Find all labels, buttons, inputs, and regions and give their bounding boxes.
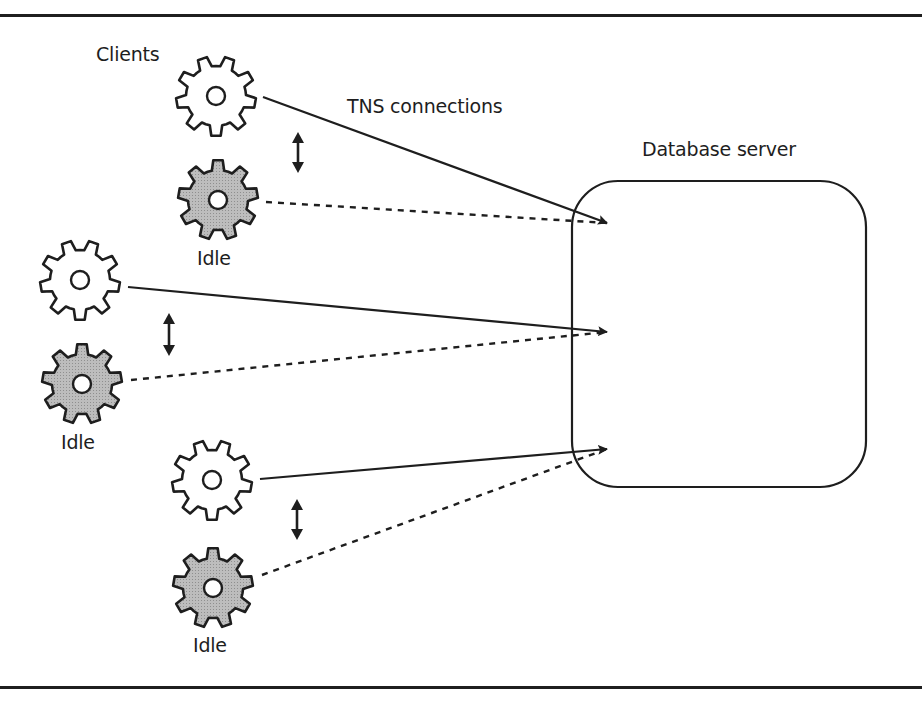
idle-label-1: Idle (197, 249, 231, 268)
tns-connection-idle (262, 449, 607, 575)
database-server-box (572, 181, 866, 487)
idle-client-gear-icon (178, 160, 258, 239)
idle-label-3: Idle (193, 636, 227, 655)
idle-label-2: Idle (61, 433, 95, 452)
double-arrow-icon (292, 132, 304, 173)
double-arrow-icon (163, 313, 175, 356)
tns-connections-label: TNS connections (347, 97, 503, 116)
tns-connection-active (260, 449, 607, 479)
tns-connection-idle (131, 332, 607, 380)
tns-connection-active (128, 287, 607, 332)
double-arrow-icon (291, 499, 303, 540)
active-client-gear-icon (176, 57, 256, 136)
active-client-gear-icon (172, 441, 252, 520)
idle-client-gear-icon (42, 344, 122, 423)
clients-label: Clients (96, 45, 160, 64)
idle-client-gear-icon (173, 548, 253, 627)
active-client-gear-icon (40, 241, 120, 320)
database-server-label: Database server (642, 140, 796, 159)
